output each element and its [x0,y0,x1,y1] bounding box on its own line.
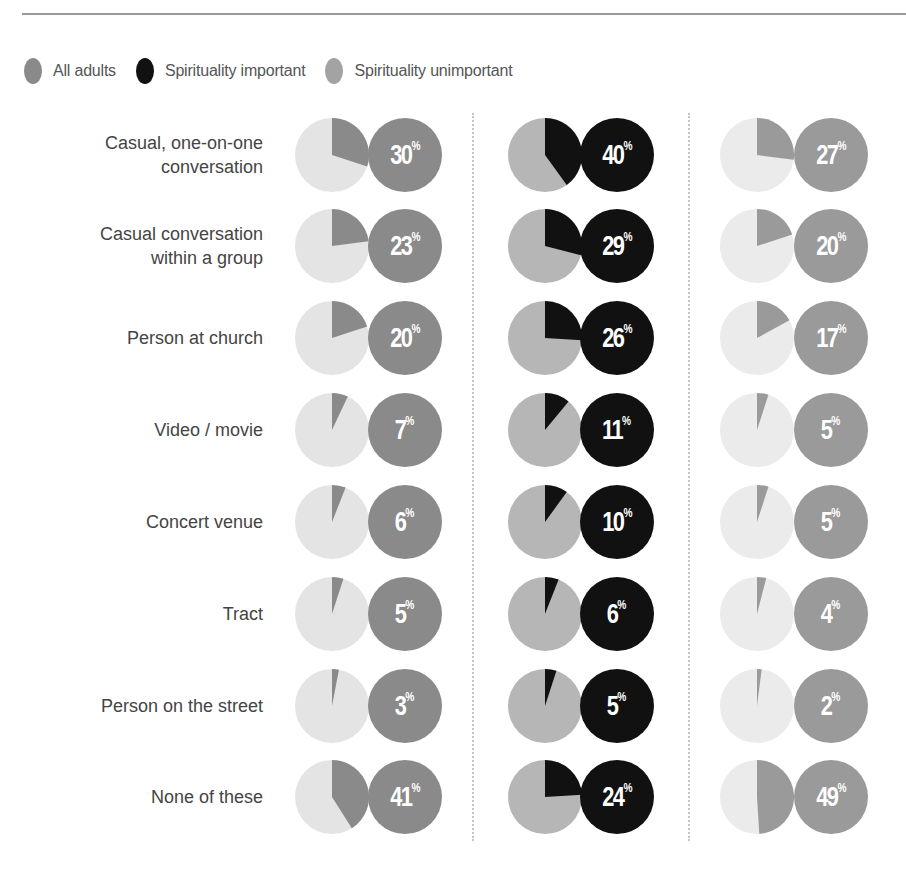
pie-spirituality-important [508,209,582,283]
row-label-line: within a group [23,246,263,270]
legend-item-all-adults: All adults [24,58,116,84]
percent-sign: % [406,689,415,704]
value-text: 5% [395,600,415,628]
column-divider-1 [472,113,474,841]
pie-spirituality-unimportant [720,301,794,375]
value-text: 10% [602,508,632,536]
value-text: 27% [816,141,846,169]
percent-sign: % [411,229,420,244]
pie-spirituality-important [508,118,582,192]
value-text: 49% [816,783,846,811]
pie-spirituality-unimportant [720,760,794,834]
legend-swatch-all-adults [24,58,42,84]
value-badge-spirituality-important: 6% [580,577,654,651]
value-text: 11% [602,416,631,444]
value-badge-spirituality-important: 24% [580,760,654,834]
value-badge-spirituality-important: 10% [580,485,654,559]
pie-all-adults [295,760,369,834]
value-text: 20% [816,232,846,260]
pie-all-adults [295,209,369,283]
percent-sign: % [832,597,841,612]
pie-spirituality-important [508,301,582,375]
percent-sign: % [623,229,632,244]
value-badge-spirituality-important: 40% [580,118,654,192]
pie-all-adults [295,669,369,743]
value-text: 5% [821,416,841,444]
percent-sign: % [832,413,841,428]
value-badge-spirituality-unimportant: 2% [794,669,868,743]
pie-all-adults [295,485,369,559]
value-text: 23% [390,232,420,260]
value-badge-all-adults: 6% [368,485,442,559]
row-label: Concert venue [23,510,263,534]
percent-sign: % [411,321,420,336]
percent-sign: % [411,780,420,795]
pie-spirituality-unimportant [720,577,794,651]
row-label: Casual, one-on-oneconversation [23,131,263,179]
row-label-line: None of these [23,785,263,809]
value-badge-all-adults: 5% [368,577,442,651]
value-badge-spirituality-unimportant: 49% [794,760,868,834]
percent-sign: % [837,138,846,153]
value-badge-spirituality-unimportant: 20% [794,209,868,283]
row-label-line: Tract [23,602,263,626]
pie-spirituality-important [508,760,582,834]
percent-sign: % [832,689,841,704]
value-badge-all-adults: 7% [368,393,442,467]
value-badge-spirituality-important: 29% [580,209,654,283]
row-label: None of these [23,785,263,809]
row-label: Person at church [23,326,263,350]
value-text: 41% [390,783,420,811]
value-text: 6% [395,508,415,536]
pie-spirituality-unimportant [720,393,794,467]
row-label-line: Video / movie [23,418,263,442]
value-text: 7% [395,416,415,444]
row-label-line: Casual, one-on-one [23,131,263,155]
percent-sign: % [623,321,632,336]
row-label-line: Concert venue [23,510,263,534]
pie-spirituality-unimportant [720,209,794,283]
value-text: 4% [821,600,841,628]
percent-sign: % [622,413,631,428]
row-label: Video / movie [23,418,263,442]
value-text: 40% [602,141,632,169]
legend-label: Spirituality important [165,62,306,80]
pie-all-adults [295,118,369,192]
percent-sign: % [623,138,632,153]
pie-all-adults [295,393,369,467]
value-badge-spirituality-unimportant: 27% [794,118,868,192]
legend-item-spirituality-important: Spirituality important [136,58,306,84]
row-label-line: Person on the street [23,694,263,718]
percent-sign: % [623,505,632,520]
pie-spirituality-unimportant [720,669,794,743]
value-badge-spirituality-important: 11% [580,393,654,467]
row-label: Tract [23,602,263,626]
percent-sign: % [837,229,846,244]
value-text: 30% [390,141,420,169]
percent-sign: % [406,597,415,612]
value-badge-all-adults: 23% [368,209,442,283]
value-badge-spirituality-important: 26% [580,301,654,375]
pie-all-adults [295,577,369,651]
percent-sign: % [618,597,627,612]
value-badge-spirituality-important: 5% [580,669,654,743]
row-label-line: Casual conversation [23,222,263,246]
value-text: 29% [602,232,632,260]
legend: All adults Spirituality important Spirit… [24,57,532,85]
value-badge-spirituality-unimportant: 5% [794,393,868,467]
value-text: 5% [607,692,627,720]
percent-sign: % [837,321,846,336]
pie-spirituality-important [508,577,582,651]
value-badge-spirituality-unimportant: 5% [794,485,868,559]
value-badge-all-adults: 3% [368,669,442,743]
value-text: 24% [602,783,632,811]
value-text: 5% [821,508,841,536]
row-label-line: Person at church [23,326,263,350]
value-badge-spirituality-unimportant: 17% [794,301,868,375]
row-label: Person on the street [23,694,263,718]
percent-sign: % [837,780,846,795]
legend-label: Spirituality unimportant [354,62,512,80]
column-divider-2 [688,113,690,841]
percent-sign: % [832,505,841,520]
percent-sign: % [406,505,415,520]
